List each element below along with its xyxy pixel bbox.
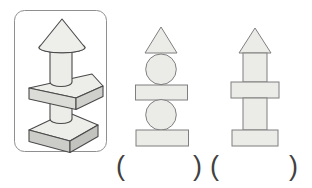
option2-triangle <box>239 28 271 53</box>
option1-open-paren: ( <box>116 150 125 182</box>
option2-rect-bottom <box>232 130 278 146</box>
option1-rect-bottom <box>136 130 189 146</box>
option1-circle-upper <box>146 54 177 85</box>
option1-figure <box>136 27 189 146</box>
option1-rect-middle <box>136 85 188 100</box>
option2-close-paren: ) <box>289 150 298 182</box>
cone-body <box>39 19 85 53</box>
option1-triangle <box>145 27 177 53</box>
reference-figure <box>15 11 107 153</box>
option2-figure <box>231 28 279 146</box>
option2-column-lower <box>243 98 267 130</box>
option1-answer-slot[interactable]: ( ) <box>116 150 202 182</box>
option1-circle-lower <box>146 100 177 131</box>
option1-close-paren: ) <box>193 150 202 182</box>
option2-crossbar <box>231 82 279 98</box>
cone-3d <box>39 19 85 53</box>
option2-answer-slot[interactable]: ( ) <box>210 150 298 182</box>
cylinder-upper <box>50 50 72 87</box>
worksheet-canvas: ( ) ( ) <box>0 0 312 188</box>
option2-column-upper <box>243 53 267 82</box>
option2-open-paren: ( <box>210 150 219 182</box>
